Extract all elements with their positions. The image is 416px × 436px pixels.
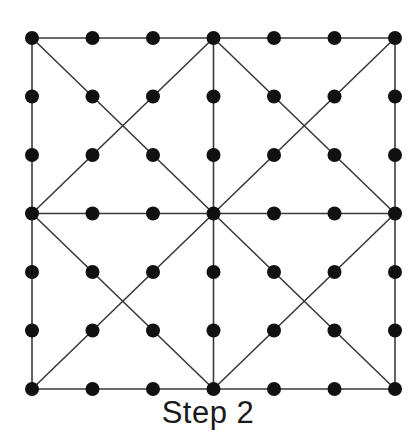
graph-node [86, 265, 100, 279]
graph-node [207, 265, 221, 279]
graph-node [328, 148, 342, 162]
graph-node [328, 207, 342, 221]
graph-node [86, 31, 100, 45]
graph-node [25, 324, 39, 338]
graph-node [86, 148, 100, 162]
graph-node [146, 90, 160, 104]
graph-node [146, 265, 160, 279]
graph-node [25, 207, 39, 221]
graph-node [207, 148, 221, 162]
graph-node [328, 90, 342, 104]
graph-node [267, 31, 281, 45]
graph-node [328, 324, 342, 338]
graph-node [146, 324, 160, 338]
graph-node [328, 265, 342, 279]
graph-node [146, 148, 160, 162]
graph-node [267, 207, 281, 221]
graph-node [328, 31, 342, 45]
graph-node [207, 207, 221, 221]
graph-node [25, 148, 39, 162]
graph-node [25, 265, 39, 279]
graph-node [207, 31, 221, 45]
step-2-lattice-figure: Step 2 [0, 0, 416, 436]
graph-node [388, 90, 402, 104]
graph-node [25, 31, 39, 45]
graph-node [207, 90, 221, 104]
graph-node [86, 90, 100, 104]
graph-node [267, 324, 281, 338]
graph-node [267, 148, 281, 162]
graph-node [388, 207, 402, 221]
graph-node [86, 324, 100, 338]
graph-node [86, 207, 100, 221]
graph-node [146, 31, 160, 45]
graph-node [146, 207, 160, 221]
figure-caption: Step 2 [0, 394, 416, 432]
graph-node [388, 324, 402, 338]
graph-node [207, 324, 221, 338]
graph-node [267, 265, 281, 279]
graph-node [388, 265, 402, 279]
graph-node [267, 90, 281, 104]
graph-node [388, 31, 402, 45]
lattice-graph [0, 0, 416, 436]
graph-node [25, 90, 39, 104]
graph-node [388, 148, 402, 162]
